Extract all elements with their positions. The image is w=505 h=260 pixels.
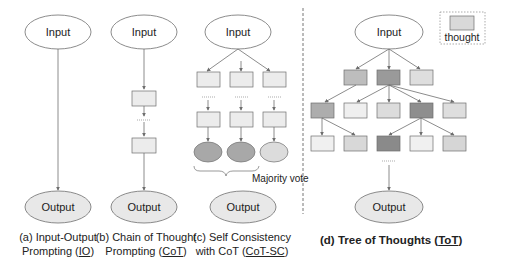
answer-node — [260, 142, 288, 162]
thought-node — [377, 70, 400, 85]
thought-node — [263, 112, 286, 127]
thought-node — [377, 136, 400, 151]
thought-node — [410, 136, 433, 151]
caption-cot: (b) Chain of Thought Prompting (CoT) — [94, 230, 198, 258]
output-label: Output — [41, 201, 74, 213]
thought-node — [311, 136, 334, 151]
caption-tot: (d) Tree of Thoughts (ToT) — [320, 233, 460, 247]
input-label: Input — [377, 26, 401, 38]
thought-node — [443, 136, 466, 151]
thought-node — [197, 72, 220, 87]
legend-thought-label: thought — [444, 31, 479, 43]
majority-brace — [194, 166, 259, 176]
thought-node — [132, 91, 156, 106]
thought-node — [443, 103, 466, 118]
output-label: Output — [226, 201, 259, 213]
majority-vote-label: Majority vote — [252, 173, 309, 184]
input-label: Input — [226, 26, 250, 38]
thought-node — [410, 103, 433, 118]
input-label: Input — [46, 26, 70, 38]
thought-node — [230, 72, 253, 87]
caption-cot-sc: (c) Self Consistency with CoT (CoT-SC) — [190, 230, 294, 258]
panel-cot: Input Output — [111, 15, 177, 223]
thought-node — [197, 112, 220, 127]
answer-node — [194, 142, 222, 162]
panel-cot-sc: Input Majority vote Output — [194, 15, 309, 223]
output-label: Output — [127, 201, 160, 213]
thought-node — [410, 70, 433, 85]
thought-node — [344, 136, 367, 151]
thought-node — [263, 72, 286, 87]
input-label: Input — [132, 26, 156, 38]
thought-node — [377, 103, 400, 118]
legend-thought-swatch — [450, 16, 474, 30]
thought-node — [311, 103, 334, 118]
thought-node — [132, 138, 156, 153]
thought-node — [230, 112, 253, 127]
panel-io: Input Output — [25, 15, 91, 223]
thought-node — [344, 70, 367, 85]
panel-tot: Input thought — [311, 12, 485, 223]
thought-node — [344, 103, 367, 118]
answer-node — [227, 142, 255, 162]
output-label: Output — [372, 201, 405, 213]
